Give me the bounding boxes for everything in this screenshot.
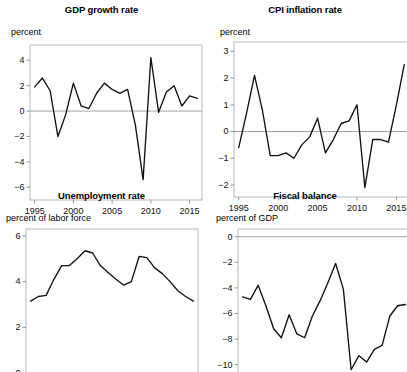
- y-axis-tick-label: 2: [19, 81, 24, 91]
- plot-frame: [26, 229, 198, 372]
- y-axis-tick-label: −4: [14, 157, 24, 167]
- panel-cpi-inflation-rate: CPI inflation rate percent 3210−1−219952…: [203, 0, 407, 186]
- y-axis-tick-label: −2: [14, 131, 24, 141]
- economic-indicators-figure: GDP growth rate percent 420−2−4−61995200…: [0, 0, 407, 372]
- plot-unemployment-rate: 642019952000200520102015: [0, 186, 203, 372]
- plot-fiscal-balance: 0−2−4−6−8−1019952000200520102015: [203, 186, 407, 372]
- y-axis-tick-label: −10: [217, 360, 232, 370]
- data-series-line: [35, 58, 198, 180]
- data-series-line: [243, 264, 406, 370]
- plot-cpi-inflation-rate: 3210−1−219952000200520102015: [203, 0, 407, 186]
- y-axis-tick-label: −8: [222, 334, 232, 344]
- y-axis-tick-label: 4: [15, 276, 20, 286]
- y-axis-tick-label: 2: [223, 73, 228, 83]
- y-axis-tick-label: 0: [15, 368, 20, 372]
- y-axis-tick-label: 4: [19, 55, 24, 65]
- y-axis-tick-label: 6: [15, 231, 20, 241]
- y-axis-tick-label: 3: [223, 46, 228, 56]
- y-axis-tick-label: 0: [223, 126, 228, 136]
- plot-frame: [234, 42, 407, 197]
- y-axis-tick-label: −4: [222, 283, 232, 293]
- y-axis-tick-label: −2: [222, 257, 232, 267]
- plot-gdp-growth-rate: 420−2−4−619952000200520102015: [0, 0, 203, 186]
- panel-fiscal-balance: Fiscal balance percent of GDP 0−2−4−6−8−…: [203, 186, 407, 372]
- y-axis-tick-label: 1: [223, 100, 228, 110]
- y-axis-tick-label: −1: [218, 153, 228, 163]
- y-axis-tick-label: 0: [227, 232, 232, 242]
- y-axis-tick-label: 0: [19, 106, 24, 116]
- data-series-line: [31, 251, 194, 301]
- panel-gdp-growth-rate: GDP growth rate percent 420−2−4−61995200…: [0, 0, 203, 186]
- y-axis-tick-label: 2: [15, 322, 20, 332]
- data-series-line: [239, 65, 405, 188]
- panel-unemployment-rate: Unemployment rate percent of labor force…: [0, 186, 203, 372]
- y-axis-tick-label: −6: [222, 308, 232, 318]
